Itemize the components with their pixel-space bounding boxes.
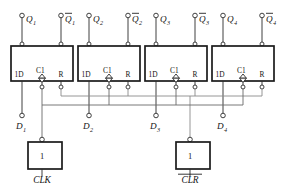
ff2-q-terminal[interactable] xyxy=(87,13,92,18)
ff2-pin-label-clk: C1 xyxy=(103,66,112,75)
ff1-pin-label-r: R xyxy=(59,70,64,79)
q2-letter: Q xyxy=(93,14,100,24)
d4-subscript: 4 xyxy=(224,126,227,133)
ff1-qbar-terminal[interactable] xyxy=(59,13,64,18)
q2bar-subscript: 2 xyxy=(139,19,142,26)
ff4-pin-label-r: R xyxy=(260,70,265,79)
d2-letter: D xyxy=(82,121,90,131)
ff3-q-terminal[interactable] xyxy=(154,13,159,18)
q4bar-letter: Q xyxy=(266,14,273,24)
d3-letter: D xyxy=(149,121,157,131)
q3-subscript: 3 xyxy=(166,19,170,26)
d1-letter: D xyxy=(15,121,23,131)
q1-subscript: 1 xyxy=(33,19,36,26)
input-label-d3: D 3 xyxy=(149,121,160,133)
ff1-pin-label-d: 1D xyxy=(15,70,25,79)
clr-buffer-gate xyxy=(176,137,210,176)
ff4-qbar-terminal[interactable] xyxy=(260,13,265,18)
input-label-d2: D 2 xyxy=(82,121,93,133)
q1-letter: Q xyxy=(26,14,33,24)
output-label-q3: Q 3 xyxy=(160,14,170,26)
ff2-d-terminal[interactable] xyxy=(87,113,92,118)
ff3-qbar-terminal[interactable] xyxy=(193,13,198,18)
d4-letter: D xyxy=(216,121,224,131)
clr-gate-symbol: 1 xyxy=(188,152,192,161)
d1-subscript: 1 xyxy=(23,126,26,133)
circuit-diagram-canvas: 1D C1 R 1D C1 R 1D C1 R 1D C1 R Q 1 Q 1 … xyxy=(0,0,285,187)
ff1-d-terminal[interactable] xyxy=(20,113,25,118)
output-label-q4: Q 4 xyxy=(227,14,237,26)
clk-gate-output-terminal[interactable] xyxy=(40,137,45,142)
clk-gate-body[interactable] xyxy=(28,142,62,169)
output-label-q1bar: Q 1 xyxy=(65,13,75,25)
d2-subscript: 2 xyxy=(90,126,93,133)
q3-letter: Q xyxy=(160,14,167,24)
q1bar-subscript: 1 xyxy=(72,19,75,26)
clk-gate-symbol: 1 xyxy=(40,152,44,161)
ff4-pin-label-d: 1D xyxy=(216,70,226,79)
output-label-q2bar: Q 2 xyxy=(132,13,142,25)
output-label-q4bar: Q 4 xyxy=(266,13,276,25)
ff4-d-terminal[interactable] xyxy=(221,113,226,118)
q3bar-letter: Q xyxy=(199,14,206,24)
q1bar-letter: Q xyxy=(65,14,72,24)
q4-letter: Q xyxy=(227,14,234,24)
q2bar-letter: Q xyxy=(132,14,139,24)
ff4-q-terminal[interactable] xyxy=(221,13,226,18)
output-label-q3bar: Q 3 xyxy=(199,13,209,25)
q4bar-subscript: 4 xyxy=(273,19,276,26)
q4-subscript: 4 xyxy=(234,19,237,26)
clk-gate-name: CLK xyxy=(33,175,51,185)
input-label-d1: D 1 xyxy=(15,121,26,133)
q3bar-subscript: 3 xyxy=(205,19,209,26)
output-label-q1: Q 1 xyxy=(26,14,36,26)
clr-gate-body[interactable] xyxy=(176,142,210,169)
input-label-d4: D 4 xyxy=(216,121,227,133)
q2-subscript: 2 xyxy=(100,19,103,26)
ff1-q-terminal[interactable] xyxy=(20,13,25,18)
ff3-pin-label-r: R xyxy=(193,70,198,79)
clr-gate-name: CLR xyxy=(181,175,198,185)
ff3-pin-label-d: 1D xyxy=(149,70,159,79)
ff3-d-terminal[interactable] xyxy=(154,113,159,118)
clr-gate-output-terminal[interactable] xyxy=(188,137,193,142)
ff4-pin-label-clk: C1 xyxy=(237,66,246,75)
ff2-qbar-terminal[interactable] xyxy=(126,13,131,18)
schematic-svg: 1D C1 R 1D C1 R 1D C1 R 1D C1 R Q 1 Q 1 … xyxy=(0,0,285,187)
ff3-pin-label-clk: C1 xyxy=(170,66,179,75)
output-label-q2: Q 2 xyxy=(93,14,103,26)
clk-buffer-gate xyxy=(28,137,62,176)
ff1-pin-label-clk: C1 xyxy=(36,66,45,75)
d3-subscript: 3 xyxy=(156,126,160,133)
ff2-pin-label-d: 1D xyxy=(82,70,92,79)
ff2-pin-label-r: R xyxy=(126,70,131,79)
